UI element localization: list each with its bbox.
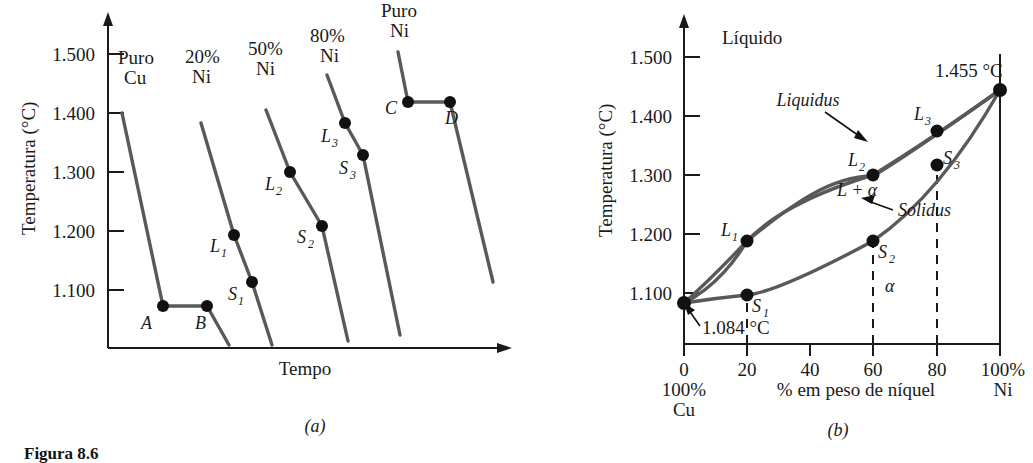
panel-a: 1.500 1.400 1.300 1.200 1.100 Temperatur…	[18, 0, 512, 437]
panel-a-ytick-1100: 1.100	[52, 280, 95, 301]
panel-a-curvelabel-20ni-line2: Ni	[192, 66, 211, 87]
panel-a-label-A: A	[140, 313, 153, 333]
svg-text:S: S	[297, 227, 306, 247]
panel-b-label-L1: L 1	[720, 220, 738, 244]
svg-text:L: L	[913, 104, 924, 124]
panel-a-ytick-1300: 1.300	[52, 162, 95, 183]
panel-a-label-D: D	[444, 108, 458, 128]
svg-text:2: 2	[889, 252, 895, 266]
panel-b-xtick-80: 80	[928, 359, 947, 380]
panel-a-curve-puro-cu: A B Puro Cu	[118, 47, 229, 345]
panel-b-ytick-1200: 1.200	[629, 224, 672, 245]
panel-a-point-L3	[339, 117, 351, 129]
svg-text:2: 2	[859, 160, 865, 174]
panel-a-curvelabel-puro-ni-line1: Puro	[381, 0, 417, 21]
panel-b-liquidus-arrow	[825, 112, 868, 142]
panel-b-xtick-100: 100%	[981, 359, 1026, 380]
panel-b: 1.500 1.400 1.300 1.200 1.100 Temperatur…	[595, 14, 1025, 441]
panel-a-y-axis-title: Temperatura (°C)	[18, 102, 40, 235]
panel-a-curvelabel-20ni-line1: 20%	[185, 46, 220, 67]
panel-a-point-S3	[357, 149, 369, 161]
panel-a-label-C: C	[385, 98, 398, 118]
svg-text:L: L	[847, 150, 858, 170]
panel-b-left-note-pct: 100%	[662, 379, 707, 400]
figure-caption: Figura 8.6	[24, 444, 99, 463]
panel-b-ytick-1500: 1.500	[629, 47, 672, 68]
panel-a-label-L2: L 2	[264, 174, 282, 198]
panel-b-subcaption: (b)	[828, 420, 849, 441]
svg-text:1: 1	[732, 230, 738, 244]
panel-a-label-L3: L 3	[320, 126, 338, 150]
panel-b-temp-cu-label: 1.084 °C	[702, 317, 770, 338]
panel-a-label-S1: S 1	[228, 284, 244, 308]
panel-b-solidus-label: Solidus	[898, 200, 951, 220]
panel-a-curvelabel-puro-ni-line2: Ni	[390, 20, 409, 41]
panel-b-left-note-cu: Cu	[673, 399, 696, 420]
svg-text:1: 1	[221, 246, 227, 260]
svg-text:2: 2	[276, 184, 282, 198]
svg-text:3: 3	[953, 158, 960, 172]
panel-b-y-ticks	[684, 57, 700, 293]
panel-a-point-S2	[316, 220, 328, 232]
svg-text:3: 3	[349, 168, 356, 182]
panel-a-subcaption: (a)	[305, 416, 326, 437]
panel-a-ytick-1200: 1.200	[52, 221, 95, 242]
panel-b-point-S3	[931, 159, 944, 172]
svg-text:L: L	[264, 174, 275, 194]
svg-text:3: 3	[331, 136, 338, 150]
panel-a-label-L1: L 1	[209, 236, 227, 260]
panel-b-xtick-20: 20	[738, 359, 757, 380]
panel-a-point-S1	[246, 276, 258, 288]
panel-b-ytick-1400: 1.400	[629, 106, 672, 127]
panel-b-region-liquid: Líquido	[722, 27, 782, 48]
svg-text:S: S	[943, 148, 952, 168]
panel-a-ytick-1400: 1.400	[52, 103, 95, 124]
svg-text:3: 3	[924, 114, 931, 128]
svg-text:2: 2	[308, 237, 314, 251]
panel-a-curve-puro-ni: C D Puro Ni	[381, 0, 493, 282]
panel-a-point-A	[157, 300, 169, 312]
panel-b-point-L1	[741, 235, 754, 248]
panel-b-label-L3: L 3	[913, 104, 931, 128]
panel-a-curvelabel-50ni-line2: Ni	[256, 58, 275, 79]
panel-a-curvelabel-80ni-line2: Ni	[320, 45, 339, 66]
panel-b-liquidus-label: Liquidus	[775, 90, 839, 110]
svg-text:S: S	[339, 158, 348, 178]
panel-a-curve-80-ni: L 3 S 3 80% Ni	[310, 25, 400, 335]
figure-svg: 1.500 1.400 1.300 1.200 1.100 Temperatur…	[0, 0, 1033, 463]
panel-b-y-axis	[679, 14, 689, 344]
svg-text:S: S	[878, 242, 887, 262]
panel-b-x-ticks	[684, 344, 1000, 356]
panel-b-right-note-ni: Ni	[994, 379, 1013, 400]
panel-b-xtick-0: 0	[679, 359, 689, 380]
panel-a-label-S3: S 3	[339, 158, 356, 182]
panel-a-point-B	[201, 300, 213, 312]
panel-b-point-L3	[931, 125, 944, 138]
panel-b-x-axis-title: % em peso de níquel	[777, 379, 935, 400]
svg-text:L: L	[720, 220, 731, 240]
panel-a-y-ticks	[108, 54, 124, 290]
panel-b-xtick-40: 40	[801, 359, 820, 380]
figure-8-6: 1.500 1.400 1.300 1.200 1.100 Temperatur…	[0, 0, 1033, 463]
panel-a-curve-50-ni: L 2 S 2 50% Ni	[248, 38, 348, 341]
panel-a-curvelabel-50ni-line1: 50%	[248, 38, 283, 59]
panel-a-x-axis-title: Tempo	[279, 358, 332, 379]
panel-a-curvelabel-puro-cu-line2: Cu	[124, 67, 147, 88]
panel-b-temp-ni-label: 1.455 °C	[935, 60, 1003, 81]
panel-a-y-axis	[103, 12, 113, 348]
panel-a-point-D	[444, 96, 456, 108]
panel-a-ytick-1500: 1.500	[52, 44, 95, 65]
panel-b-label-L2: L 2	[847, 150, 865, 174]
panel-a-curvelabel-puro-cu-line1: Puro	[118, 47, 154, 68]
panel-a-point-L1	[228, 229, 240, 241]
panel-b-xtick-60: 60	[864, 359, 883, 380]
svg-text:S: S	[228, 284, 237, 304]
panel-a-point-C	[402, 96, 414, 108]
panel-b-ytick-1300: 1.300	[629, 165, 672, 186]
panel-b-ytick-1100: 1.100	[629, 283, 672, 304]
panel-a-curve-20-ni: L 1 S 1 20% Ni	[185, 46, 272, 345]
svg-text:L: L	[320, 126, 331, 146]
panel-b-label-S3: S 3	[943, 148, 960, 172]
panel-b-region-alpha: α	[885, 276, 895, 296]
panel-a-label-B: B	[195, 313, 206, 333]
